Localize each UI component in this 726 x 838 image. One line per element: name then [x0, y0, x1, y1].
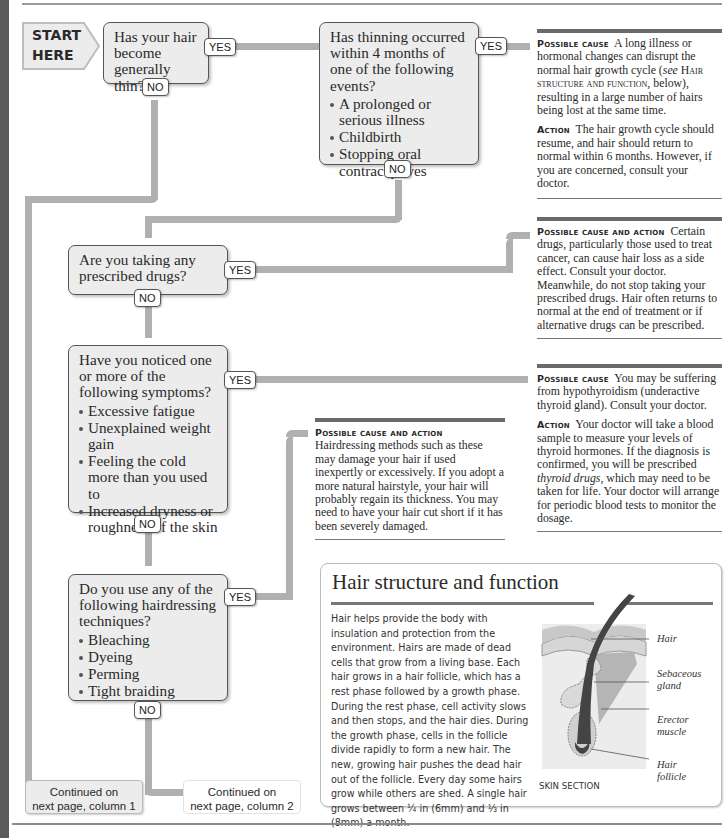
list-item: Tight braiding: [79, 683, 219, 699]
question-4-box: Have you noticed one or more of the foll…: [68, 345, 228, 513]
action-label: Action: [537, 419, 570, 430]
yes-tag[interactable]: YES: [224, 371, 256, 389]
question-text: Do you use any of the following hairdres…: [79, 581, 219, 630]
cause-label: Possible cause and action: [315, 427, 442, 438]
outcome-1: Possible cause A long illness or hormona…: [537, 29, 722, 199]
cause-label: Possible cause: [537, 373, 609, 384]
action-label: Action: [537, 124, 570, 135]
start-here-marker: START HERE: [22, 22, 100, 70]
question-1-box: Has your hair become generally thin?: [103, 22, 209, 84]
diagram-caption: SKIN SECTION: [539, 781, 600, 791]
label-sebaceous-gland: Sebaceous gland: [657, 668, 707, 692]
outcome-3: Possible cause You may be suffering from…: [537, 364, 722, 532]
no-tag[interactable]: NO: [134, 289, 161, 307]
hair-structure-infobox: Hair structure and function Hair helps p…: [320, 563, 722, 807]
skin-section-diagram: [539, 594, 649, 774]
technique-list: Bleaching Dyeing Perming Tight braiding: [79, 632, 219, 700]
list-item: Unexplained weight gain: [79, 420, 219, 452]
list-item: Feeling the cold more than you used to: [79, 453, 219, 502]
yes-tag[interactable]: YES: [204, 38, 236, 56]
no-tag[interactable]: NO: [134, 701, 161, 719]
list-item: Bleaching: [79, 632, 219, 648]
page-edge-strip: [0, 0, 9, 838]
yes-tag[interactable]: YES: [224, 588, 256, 606]
question-text: Are you taking any prescribed drugs?: [79, 252, 219, 284]
no-tag[interactable]: NO: [384, 160, 411, 178]
list-item: Dyeing: [79, 649, 219, 665]
continued-column-2-button[interactable]: Continued on next page, column 2: [183, 780, 301, 814]
label-hair-follicle: Hair follicle: [657, 759, 697, 783]
list-item: A prolonged or serious illness: [330, 96, 470, 128]
infobox-body: Hair helps provide the body with insulat…: [331, 612, 531, 831]
question-2-box: Has thinning occurred within 4 months of…: [319, 22, 479, 165]
no-tag[interactable]: NO: [134, 515, 161, 533]
outcome-4: Possible cause and action Hairdressing m…: [315, 418, 505, 540]
yes-tag[interactable]: YES: [224, 261, 256, 279]
question-5-box: Do you use any of the following hairdres…: [68, 574, 228, 701]
outcome-2: Possible cause and action Certain drugs,…: [537, 217, 722, 339]
question-3-box: Are you taking any prescribed drugs?: [68, 245, 228, 295]
list-item: Perming: [79, 666, 219, 682]
cause-label: Possible cause and action: [537, 226, 664, 237]
infobox-title: Hair structure and function: [332, 570, 559, 595]
list-item: Excessive fatigue: [79, 403, 219, 419]
continued-column-1-button[interactable]: Continued on next page, column 1: [25, 780, 143, 814]
question-text: Has thinning occurred within 4 months of…: [330, 29, 470, 94]
label-hair: Hair: [657, 633, 677, 645]
question-text: Have you noticed one or more of the foll…: [79, 352, 219, 401]
bottom-rule: [12, 823, 722, 825]
no-tag[interactable]: NO: [142, 78, 169, 96]
top-rule: [22, 3, 722, 5]
yes-tag[interactable]: YES: [475, 37, 507, 55]
list-item: Childbirth: [330, 129, 470, 145]
cause-label: Possible cause: [537, 38, 609, 49]
label-erector-muscle: Erector muscle: [657, 714, 703, 738]
